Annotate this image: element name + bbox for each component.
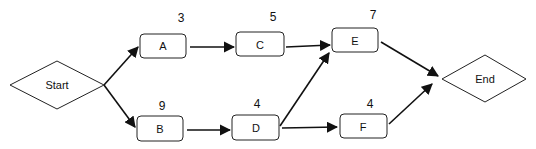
network-diagram: Start A 3 B 9 C 5 D 4 E 7 F 4 End [0, 0, 536, 149]
node-b: B 9 [137, 99, 183, 141]
svg-text:A: A [159, 40, 167, 52]
svg-text:4: 4 [367, 97, 374, 111]
svg-text:B: B [156, 123, 163, 135]
svg-text:C: C [256, 39, 264, 51]
edge-d-f [282, 127, 337, 128]
svg-text:End: End [475, 73, 495, 85]
node-f: F 4 [340, 97, 387, 138]
node-end: End [442, 55, 526, 102]
svg-text:Start: Start [45, 79, 68, 91]
edge-start-b [104, 85, 135, 127]
edge-start-a [104, 47, 138, 85]
edge-e-end [381, 42, 438, 76]
svg-text:7: 7 [370, 8, 377, 22]
svg-text:F: F [360, 121, 367, 133]
node-c: C 5 [236, 10, 284, 56]
edge-c-e [286, 45, 330, 47]
node-d: D 4 [232, 97, 279, 140]
svg-text:9: 9 [159, 99, 166, 113]
node-start: Start [10, 61, 104, 109]
svg-text:E: E [351, 35, 358, 47]
node-a: A 3 [140, 11, 186, 58]
svg-text:3: 3 [178, 11, 185, 25]
svg-text:5: 5 [270, 10, 277, 24]
node-e: E 7 [332, 8, 378, 52]
edge-d-e [280, 53, 329, 126]
svg-text:D: D [252, 122, 260, 134]
svg-text:4: 4 [254, 97, 261, 111]
edge-f-end [389, 84, 432, 124]
